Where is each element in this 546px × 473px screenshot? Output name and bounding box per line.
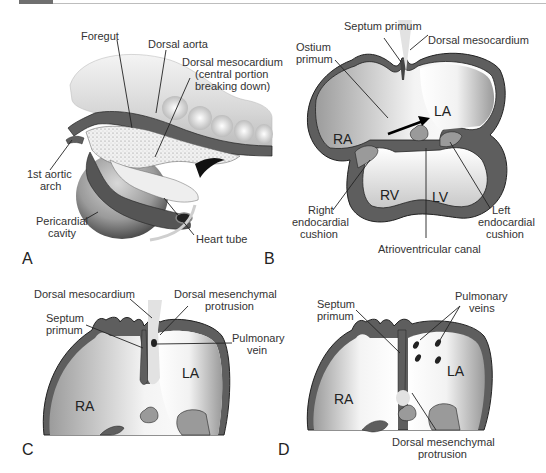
label-dorsal-aorta: Dorsal aorta	[148, 38, 209, 50]
label-mesenchymal-d1: Dorsal mesenchymal	[392, 436, 495, 448]
label-pulmonary-d1: Pulmonary	[455, 290, 508, 302]
panel-c: Dorsal mesocardium Dorsal mesenchymal pr…	[22, 288, 285, 458]
panel-letter-b: B	[264, 250, 275, 267]
label-ostium-2: primum	[296, 53, 333, 65]
chamber-la-b: LA	[434, 103, 452, 119]
label-septum-c2: primum	[46, 324, 83, 336]
label-septum-c1: Septum	[46, 312, 84, 324]
panel-d: Septum primum Pulmonary veins RA LA Dors…	[278, 290, 508, 460]
panel-a: Foregut Dorsal aorta Dorsal mesocardium …	[22, 30, 283, 267]
chamber-la-c: LA	[182, 365, 200, 381]
label-pericardial-2: cavity	[48, 227, 77, 239]
chamber-lv-b: LV	[432, 189, 449, 205]
panel-letter-d: D	[278, 441, 290, 458]
label-left-cushion-2: endocardial	[478, 216, 535, 228]
label-left-cushion-1: Left	[492, 204, 510, 216]
label-dorsal-mesocardium-a3: breaking down)	[195, 80, 270, 92]
label-heart-tube: Heart tube	[196, 233, 247, 245]
label-dorsal-mesocardium-a1: Dorsal mesocardium	[182, 56, 283, 68]
label-pulmonary-c1: Pulmonary	[232, 332, 285, 344]
chamber-la-d: LA	[447, 363, 465, 379]
septum-primum-d	[398, 330, 406, 397]
label-av-canal: Atrioventricular canal	[378, 243, 481, 255]
label-left-cushion-3: cushion	[486, 228, 524, 240]
dorsal-mesenchymal-protrusion-d	[396, 390, 410, 406]
label-dorsal-mesocardium-c: Dorsal mesocardium	[34, 288, 135, 300]
panel-letter-c: C	[22, 441, 34, 458]
label-pericardial-1: Pericardial	[36, 215, 88, 227]
panel-b: Septum primum Dorsal mesocardium Ostium …	[264, 20, 535, 267]
label-mesenchymal-c2: protrusion	[205, 300, 254, 312]
label-mesenchymal-d2: protrusion	[418, 448, 467, 460]
label-right-cushion-1: Right	[308, 204, 334, 216]
label-pulmonary-d2: veins	[469, 302, 495, 314]
label-right-cushion-3: cushion	[300, 228, 338, 240]
chamber-ra-b: RA	[333, 131, 353, 147]
label-dorsal-mesocardium-b: Dorsal mesocardium	[428, 34, 529, 46]
label-mesenchymal-c1: Dorsal mesenchymal	[174, 288, 277, 300]
chamber-ra-c: RA	[75, 398, 95, 414]
heart-development-figure: Foregut Dorsal aorta Dorsal mesocardium …	[0, 0, 546, 473]
left-cushion-c	[177, 410, 210, 435]
label-aortic-arch-1: 1st aortic	[27, 168, 72, 180]
label-aortic-arch-2: arch	[40, 180, 61, 192]
label-dorsal-mesocardium-a2: (central portion	[195, 68, 268, 80]
first-aortic-arch	[66, 136, 84, 144]
label-ostium-1: Ostium	[296, 41, 331, 53]
chamber-rv-b: RV	[380, 187, 400, 203]
label-right-cushion-2: endocardial	[292, 216, 349, 228]
label-septum-primum-b: Septum primum	[344, 20, 422, 32]
panel-letter-a: A	[22, 250, 33, 267]
ra-cavity-d	[314, 334, 398, 430]
label-septum-d1: Septum	[317, 298, 355, 310]
label-septum-d2: primum	[317, 310, 354, 322]
label-pulmonary-c2: vein	[247, 344, 267, 356]
chamber-ra-d: RA	[334, 391, 354, 407]
label-foregut: Foregut	[81, 30, 119, 42]
pulmonary-vein-c	[151, 339, 157, 347]
